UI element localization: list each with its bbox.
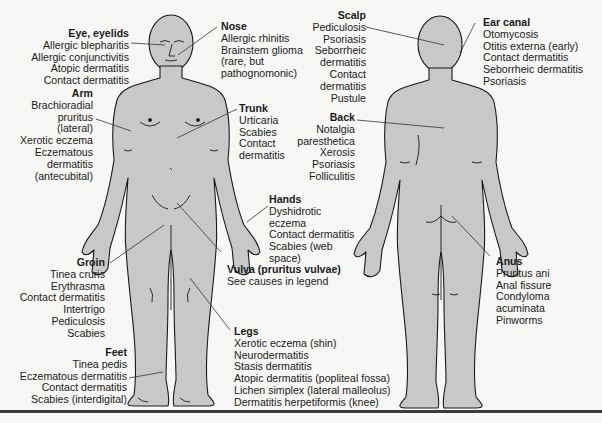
condition-item: Pinworms <box>496 315 551 327</box>
condition-item: dermatitis <box>312 81 366 93</box>
label-vulva: Vulva (pruritus vulvae) See causes in le… <box>227 264 341 288</box>
condition-item: Contact <box>312 69 366 81</box>
condition-item: Pustule <box>312 93 366 105</box>
label-arm: Arm Brachioradial pruritus (lateral) Xer… <box>20 88 93 182</box>
leader-ear <box>460 23 475 53</box>
condition-item: Psoriasis <box>483 76 583 88</box>
condition-item: Lichen simplex (lateral malleolus) <box>234 385 391 397</box>
condition-item: Scabies (interdigital) <box>20 394 127 406</box>
condition-item: Allergic rhinitis <box>221 33 303 45</box>
label-feet: Feet Tinea pedis Eczematous dermatitis C… <box>20 347 127 406</box>
condition-item: Tinea pedis <box>20 359 127 371</box>
condition-item: Contact dermatitis <box>31 75 129 87</box>
label-legs: Legs Xerotic eczema (shin) Neurodermatit… <box>234 326 391 409</box>
label-anus: Anus Pruritus ani Anal fissure Condyloma… <box>496 256 551 327</box>
condition-item: Tinea cruris <box>20 269 105 281</box>
condition-item: Xerotic eczema (shin) <box>234 338 391 350</box>
condition-item: Allergic blepharitis <box>31 40 129 52</box>
leader-hands <box>247 206 268 222</box>
condition-item: Otomycosis <box>483 29 583 41</box>
condition-item: dermatitis <box>20 159 93 171</box>
condition-item: Notalgia <box>297 124 355 136</box>
label-ear-canal: Ear canal Otomycosis Otitis externa (ear… <box>483 17 583 88</box>
label-trunk: Trunk Urticaria Scabies Contact dermatit… <box>239 103 285 162</box>
condition-item: dermatitis <box>239 150 285 162</box>
label-back: Back Notalgia paresthetica Xerosis Psori… <box>297 112 355 183</box>
front-head <box>149 15 193 71</box>
condition-item: Scabies <box>20 328 105 340</box>
condition-item: Urticaria <box>239 115 285 127</box>
condition-item: Dyshidrotic <box>269 206 354 218</box>
condition-item: Pediculosis <box>20 316 105 328</box>
label-scalp: Scalp Pediculosis Psoriasis Seborrheic d… <box>312 10 366 104</box>
condition-item: Pruritus ani <box>496 268 551 280</box>
condition-item: Dermatitis herpetiformis (knee) <box>234 397 391 409</box>
condition-item: Pediculosis <box>312 22 366 34</box>
label-eye-eyelids: Eye, eyelids Allergic blepharitis Allerg… <box>31 28 129 87</box>
condition-item: Folliculitis <box>297 171 355 183</box>
label-groin: Groin Tinea cruris Erythrasma Contact de… <box>20 257 105 340</box>
label-hands: Hands Dyshidrotic eczema Contact dermati… <box>269 194 354 265</box>
condition-item: See causes in legend <box>227 276 341 288</box>
bottom-divider <box>0 410 602 413</box>
condition-item: pathognomonic) <box>221 68 303 80</box>
condition-item: Eczematous <box>20 147 93 159</box>
label-nose: Nose Allergic rhinitis Brainstem glioma … <box>221 21 303 80</box>
condition-item: (antecubital) <box>20 171 93 183</box>
condition-item: Brachioradial <box>20 100 93 112</box>
